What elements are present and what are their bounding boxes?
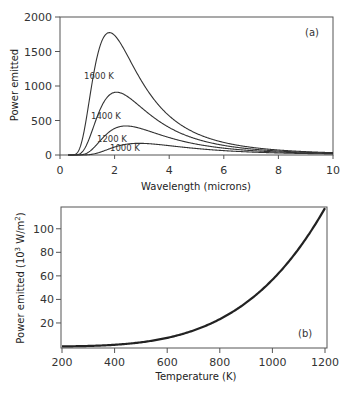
y-tick-label: 60 — [40, 270, 54, 283]
x-tick-label: 2 — [111, 164, 118, 177]
y-tick-label: 0 — [45, 149, 52, 162]
x-tick-label: 400 — [104, 356, 125, 369]
y-tick-label: 40 — [40, 293, 54, 306]
chart-a: 0246810 0500100015002000 1600 K 1400 K 1… — [9, 11, 340, 192]
curve-sigma-t4 — [62, 208, 325, 346]
chart-b: 20040060080010001200 20406080100 (b) Tem… — [14, 207, 339, 382]
y-tick-label: 1000 — [24, 80, 52, 93]
curve-label-1000k: 1000 K — [110, 143, 140, 153]
curve-label-1400k: 1400 K — [91, 111, 121, 121]
x-tick-label: 600 — [157, 356, 178, 369]
x-axis-b-title: Temperature (K) — [155, 371, 237, 382]
x-tick-label: 800 — [209, 356, 230, 369]
x-tick-label: 1200 — [311, 356, 339, 369]
x-axis-b-ticks: 20040060080010001200 — [52, 348, 340, 369]
x-tick-label: 4 — [166, 164, 173, 177]
x-tick-label: 1000 — [258, 356, 286, 369]
x-tick-label: 0 — [57, 164, 64, 177]
x-tick-label: 8 — [275, 164, 282, 177]
y-tick-label: 1500 — [24, 46, 52, 59]
figure: 0246810 0500100015002000 1600 K 1400 K 1… — [0, 0, 351, 397]
x-tick-label: 10 — [326, 164, 340, 177]
y-tick-label: 80 — [40, 246, 54, 259]
panel-label-b: (b) — [298, 328, 312, 339]
plot-b-curve — [62, 208, 325, 346]
y-axis-b-ticks: 20406080100 — [33, 223, 61, 330]
curve-1400k — [68, 92, 333, 155]
plot-b-frame — [61, 207, 327, 348]
y-axis-a-title: Power emitted — [9, 49, 20, 121]
panel-label-a: (a) — [305, 27, 319, 38]
y-tick-label: 2000 — [24, 11, 52, 24]
y-axis-a-ticks: 0500100015002000 — [24, 11, 60, 162]
x-tick-label: 200 — [52, 356, 73, 369]
x-tick-label: 6 — [220, 164, 227, 177]
y-tick-label: 500 — [31, 115, 52, 128]
y-tick-label: 20 — [40, 317, 54, 330]
curve-label-1600k: 1600 K — [84, 71, 114, 81]
y-tick-label: 100 — [33, 223, 54, 236]
y-axis-b-title: Power emitted (103 W/m2) — [14, 212, 26, 343]
x-axis-a-ticks: 0246810 — [57, 155, 341, 177]
x-axis-a-title: Wavelength (microns) — [141, 181, 251, 192]
